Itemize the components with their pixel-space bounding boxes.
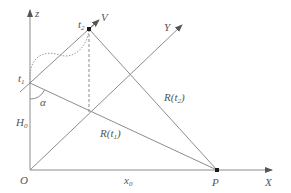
v-label: V [101,11,109,23]
y-axis-label: Y [164,21,172,33]
y-axis [30,25,182,170]
x-axis-label: X [264,176,273,188]
alpha-label: α [40,96,46,108]
z-axis-label: z [34,7,40,19]
r-t1-label: R(t1) [99,127,121,141]
range-line-r-t1 [30,83,217,170]
point-p [215,168,219,172]
t2-label: t2 [78,18,85,32]
r-t2-label: R(t2) [163,91,185,105]
origin-label: O [20,174,28,186]
p-label: P [211,176,219,188]
t1-label: t1 [18,72,25,86]
h0-label: H0 [15,116,28,130]
x0-label: x0 [123,174,133,188]
point-t2 [87,27,91,31]
range-line-r-t2 [89,29,217,170]
geometry-diagram: z Y X O V P t2 t1 α H0 x0 R(t1) R(t2) [0,0,291,193]
